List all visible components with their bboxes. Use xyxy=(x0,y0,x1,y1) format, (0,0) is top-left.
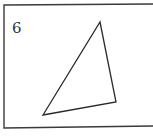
diagram-canvas: 6 xyxy=(0,0,153,137)
frame-border xyxy=(4,4,153,128)
triangle-shape xyxy=(43,22,116,115)
figure-number: 6 xyxy=(12,19,22,37)
